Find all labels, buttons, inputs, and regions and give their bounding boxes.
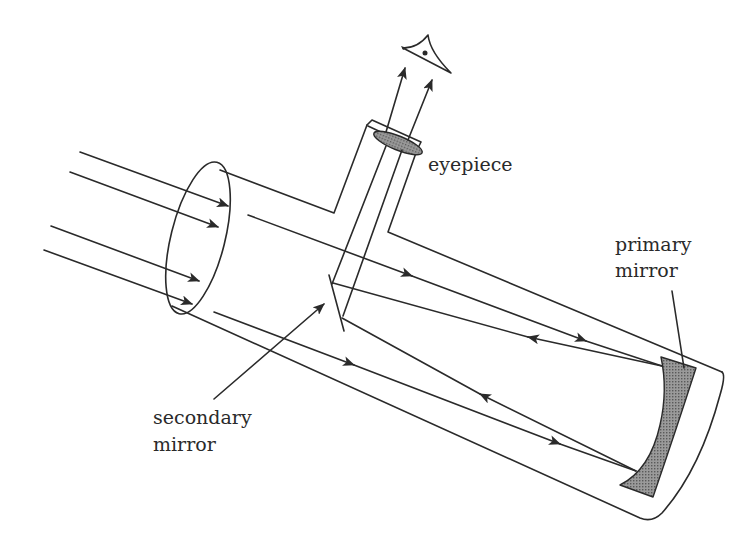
eye-icon — [401, 35, 451, 73]
primary-mirror-leader — [672, 291, 684, 368]
inner-ray-upper-a — [248, 215, 412, 276]
primary-mirror — [620, 357, 696, 497]
ray-to-eye-2 — [408, 80, 432, 140]
reflected-ray-lower-b — [342, 318, 480, 394]
tube-aperture — [153, 156, 243, 320]
ray-to-eye-1 — [386, 68, 405, 132]
incoming-ray-2 — [70, 172, 218, 227]
secondary-mirror-label-line2: mirror — [153, 433, 216, 455]
secondary-mirror-label-line1: secondary — [153, 406, 252, 428]
eyepiece-label: eyepiece — [428, 153, 513, 175]
primary-mirror-label-line1: primary — [615, 233, 691, 255]
inner-ray-upper-b — [412, 276, 586, 341]
inner-ray-lower-c — [560, 444, 636, 471]
primary-mirror-label-line2: mirror — [615, 259, 678, 281]
incoming-ray-1 — [80, 152, 228, 206]
reflected-ray-lower-a — [480, 394, 636, 471]
incoming-ray-4 — [44, 250, 192, 304]
inner-ray-lower-b — [354, 365, 560, 444]
reflected-ray-upper-a — [528, 337, 662, 366]
tube-top-edge — [220, 125, 367, 213]
incoming-ray-3 — [51, 226, 199, 281]
inner-ray-upper-c — [586, 341, 662, 366]
